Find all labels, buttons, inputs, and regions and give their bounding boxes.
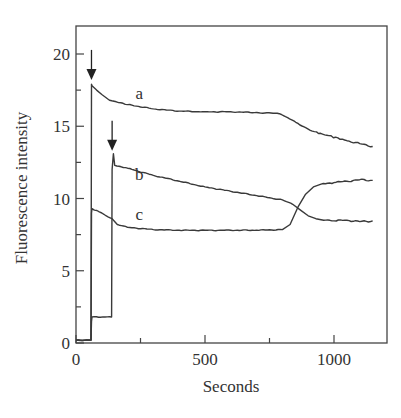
y-tick-label: 20 xyxy=(53,45,70,64)
y-tick-label: 15 xyxy=(53,117,70,136)
y-tick-label: 0 xyxy=(62,334,71,353)
curve-a xyxy=(76,84,373,340)
x-tick-label: 500 xyxy=(192,350,218,369)
arrow-down-icon xyxy=(86,69,96,80)
curve-b xyxy=(76,154,373,341)
axis-ticks xyxy=(76,54,334,343)
x-tick-label: 0 xyxy=(72,350,81,369)
y-axis-title: Fluorescence intensity xyxy=(12,111,31,264)
arrow-down-icon xyxy=(107,140,117,151)
axis-tick-labels: 0500100005101520 xyxy=(53,45,351,369)
curve-label-b: b xyxy=(135,165,144,184)
x-axis-title: Seconds xyxy=(203,377,260,396)
plot-frame xyxy=(76,26,387,343)
y-tick-label: 10 xyxy=(53,190,70,209)
x-tick-label: 1000 xyxy=(317,350,351,369)
curve-label-c: c xyxy=(135,205,143,224)
curve-label-a: a xyxy=(135,84,143,103)
data-curves xyxy=(76,84,373,340)
y-tick-label: 5 xyxy=(62,262,71,281)
fluorescence-chart: 0500100005101520 abc Seconds Fluorescenc… xyxy=(0,0,401,418)
curve-labels: abc xyxy=(135,84,144,224)
curve-c xyxy=(76,179,373,340)
